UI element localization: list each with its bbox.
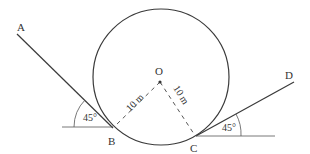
label-C: C xyxy=(190,142,197,154)
diagram-canvas: O A B C D 45° 45° 10 m 10 m xyxy=(0,0,310,154)
center-dot xyxy=(158,80,161,83)
label-A: A xyxy=(17,21,25,33)
label-B: B xyxy=(108,135,115,147)
angle-label-B: 45° xyxy=(83,112,97,123)
radius-label-OC: 10 m xyxy=(171,83,191,106)
line-CD xyxy=(196,82,294,136)
label-O: O xyxy=(155,65,163,77)
line-AB xyxy=(17,34,113,128)
angle-label-C: 45° xyxy=(222,122,236,133)
diagram-svg: O A B C D 45° 45° 10 m 10 m xyxy=(0,0,310,154)
circle-track xyxy=(93,9,229,145)
angle-arc-C xyxy=(236,114,241,136)
label-D: D xyxy=(285,69,293,81)
radius-label-OB: 10 m xyxy=(124,91,146,113)
